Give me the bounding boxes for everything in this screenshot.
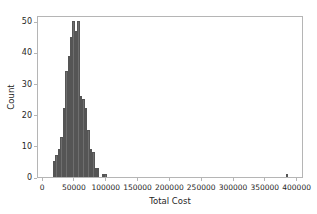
x-axis-label: Total Cost (37, 196, 303, 207)
x-tick-mark (169, 178, 170, 181)
y-tick-label: 30 (22, 79, 32, 91)
x-tick-label: 200000 (155, 182, 184, 193)
y-tick-mark (34, 115, 37, 116)
histogram-bars (38, 17, 302, 177)
x-tick-mark (201, 178, 202, 181)
x-tick-mark (42, 178, 43, 181)
histogram-bar (104, 174, 106, 177)
y-tick-mark (34, 22, 37, 23)
x-tick-mark (137, 178, 138, 181)
x-tick-label: 0 (40, 182, 45, 193)
x-tick-label: 350000 (250, 182, 279, 193)
x-tick-mark (73, 178, 74, 181)
x-tick-label: 300000 (219, 182, 248, 193)
y-tick-label: 40 (22, 47, 32, 59)
x-tick-label: 400000 (282, 182, 311, 193)
plot-area (37, 16, 303, 178)
y-tick-mark (34, 84, 37, 85)
y-tick-label: 50 (22, 16, 32, 28)
x-tick-mark (233, 178, 234, 181)
x-tick-label: 100000 (91, 182, 120, 193)
x-axis: 0500001000001500002000002500003000003500… (37, 178, 303, 198)
x-tick-mark (264, 178, 265, 181)
y-tick-label: 10 (22, 141, 32, 153)
histogram-figure: 01020304050 0500001000001500002000002500… (0, 0, 317, 214)
histogram-bar (97, 168, 99, 177)
histogram-bar (286, 174, 288, 177)
y-tick-label: 0 (27, 172, 32, 184)
x-tick-label: 50000 (62, 182, 86, 193)
x-tick-label: 150000 (123, 182, 152, 193)
y-tick-mark (34, 146, 37, 147)
y-axis-label: Count (5, 16, 17, 178)
y-tick-label: 20 (22, 110, 32, 122)
y-tick-mark (34, 53, 37, 54)
x-tick-mark (296, 178, 297, 181)
x-tick-mark (105, 178, 106, 181)
x-tick-label: 250000 (187, 182, 216, 193)
